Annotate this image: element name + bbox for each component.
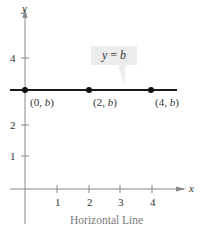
point-0-b bbox=[22, 87, 28, 93]
point-4-b bbox=[148, 87, 154, 93]
y-axis-label: y bbox=[22, 3, 27, 14]
x-axis-label: x bbox=[189, 183, 194, 194]
x-tick-label-4: 4 bbox=[150, 197, 156, 208]
figure-caption: Horizontal Line bbox=[70, 214, 143, 226]
y-tick-label-1: 1 bbox=[10, 151, 16, 162]
y-tick-label-2: 2 bbox=[10, 120, 16, 131]
point-label-2-b: (2, b) bbox=[93, 97, 117, 108]
point-2-b bbox=[86, 87, 92, 93]
y-tick-label-4: 4 bbox=[10, 53, 16, 64]
point-label-4-b: (4, b) bbox=[155, 97, 179, 108]
x-tick-label-2: 2 bbox=[87, 197, 93, 208]
callout-pointer bbox=[118, 64, 126, 86]
equation-callout: y = b bbox=[91, 46, 137, 65]
x-tick-label-3: 3 bbox=[118, 197, 124, 208]
x-tick-label-1: 1 bbox=[55, 197, 61, 208]
x-axis-arrow-icon bbox=[176, 187, 186, 192]
point-label-0-b: (0, b) bbox=[30, 97, 54, 108]
graph-canvas bbox=[0, 0, 202, 234]
